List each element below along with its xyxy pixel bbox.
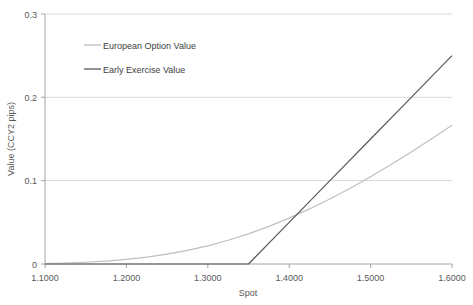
y-tick-label-3: 0.3 <box>24 10 37 20</box>
y-tick-labels: 0.3 0.2 0.1 0 <box>24 10 37 270</box>
x-tick-label-1: 1.2000 <box>113 273 141 283</box>
legend-label-early-exercise-value: Early Exercise Value <box>103 65 185 75</box>
legend: European Option Value Early Exercise Val… <box>84 41 196 75</box>
x-tick-label-0: 1.1000 <box>31 273 59 283</box>
series-line-early-exercise-value <box>45 56 452 264</box>
x-tick-label-2: 1.3000 <box>194 273 222 283</box>
x-tick-label-4: 1.5000 <box>357 273 385 283</box>
y-axis-title: Value (CCY2 pips) <box>6 102 16 176</box>
y-tick-label-2: 0.2 <box>24 93 37 103</box>
chart-container: 0.3 0.2 0.1 0 1.1000 1.2000 1.3000 1.400… <box>0 0 473 305</box>
chart-svg: 0.3 0.2 0.1 0 1.1000 1.2000 1.3000 1.400… <box>0 0 473 305</box>
x-tick-label-5: 1.6000 <box>438 273 466 283</box>
gridlines <box>45 14 452 181</box>
x-axis-title: Spot <box>239 288 258 298</box>
y-tick-label-1: 0.1 <box>24 176 37 186</box>
y-tick-label-0: 0 <box>32 260 37 270</box>
x-tick-label-3: 1.4000 <box>275 273 303 283</box>
y-axis <box>41 14 45 264</box>
series-line-european-option-value <box>45 125 452 263</box>
x-tick-labels: 1.1000 1.2000 1.3000 1.4000 1.5000 1.600… <box>31 273 466 283</box>
legend-label-european-option-value: European Option Value <box>103 41 196 51</box>
series-group <box>45 56 452 264</box>
